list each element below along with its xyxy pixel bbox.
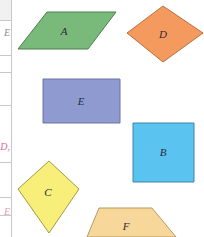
shape-b-square: B (133, 123, 194, 182)
shapes-canvas: ADEBCF (0, 0, 204, 237)
shape-label: C (44, 186, 52, 198)
shape-label: D (158, 28, 167, 40)
shape-c-kite: C (18, 161, 79, 233)
shape-label: B (160, 146, 167, 158)
trapezoid-polygon (87, 208, 176, 237)
shape-label: F (122, 220, 130, 232)
shapes-diagram: ED,E ADEBCF (0, 0, 204, 237)
shape-label: E (77, 95, 85, 107)
shape-e-rectangle: E (43, 79, 120, 123)
shape-f-trapezoid: F (87, 208, 176, 237)
shape-label: A (60, 25, 68, 37)
shape-d-rhombus: D (127, 6, 203, 62)
shape-a-parallelogram: A (18, 12, 116, 49)
